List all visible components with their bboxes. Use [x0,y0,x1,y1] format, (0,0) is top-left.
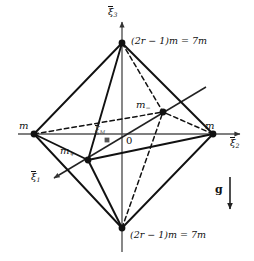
m-minus-subscript: − [145,104,150,111]
edge-bottom-left [34,134,122,228]
xi-M-subscript: M [100,129,105,135]
vertex-top-label: (2r − 1)m = 7m [131,36,207,46]
xi-M-symbol: ξ [95,126,100,135]
xi2-axis-label: ξ2 [230,138,239,149]
origin-label: 0 [126,136,132,146]
vertex-back-label: m− [136,100,151,111]
xi2-subscript: 2 [236,142,240,149]
edge-bottom-back [122,112,163,228]
vertex-top-dot [119,40,126,47]
vertex-front-label: m+ [60,146,75,157]
hidden-edges [34,43,213,228]
xi3-subscript: 3 [114,11,118,18]
visible-edges [34,43,213,228]
xi2-symbol: ξ [230,138,236,148]
vertex-right-label: m [205,121,214,131]
octahedron-diagram: ξ3 ξ2 ξ1 0 ξM (2r − 1)m = 7m (2r − 1)m =… [0,0,254,261]
diagram-canvas [0,0,254,261]
xi-M-label: ξM [95,126,105,136]
m-plus-subscript: + [69,150,74,157]
edge-bottom-right [122,134,213,228]
vertex-right-dot [210,131,217,138]
center-of-mass-marker [105,138,110,143]
vertex-markers [31,40,217,232]
vertex-left-label: m [19,121,28,131]
vertex-front-dot [85,157,92,164]
xi1-symbol: ξ [31,172,37,182]
xi1-subscript: 1 [37,176,41,183]
edge-bottom-front [88,160,122,228]
xi1-axis-label: ξ1 [31,172,40,183]
vertex-left-dot [31,131,38,138]
gravity-label: g [215,184,223,195]
edge-top-right [122,43,213,134]
xi3-axis-label: ξ3 [108,7,117,18]
vertex-bottom-dot [119,225,126,232]
vertex-back-dot [160,109,167,116]
xi3-symbol: ξ [108,7,114,17]
vertex-bottom-label: (2r − 1)m = 7m [130,230,206,240]
